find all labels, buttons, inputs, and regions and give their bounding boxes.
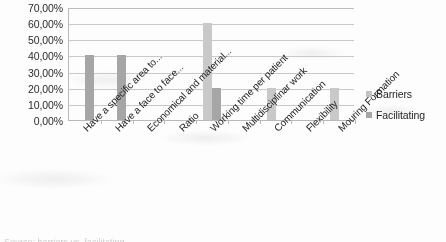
x-axis-tick bbox=[196, 120, 197, 124]
x-axis-tick bbox=[228, 120, 229, 124]
legend-swatch-icon bbox=[366, 112, 372, 118]
x-axis-tick bbox=[260, 120, 261, 124]
bar-barriers bbox=[203, 23, 212, 120]
bar-group bbox=[69, 8, 101, 120]
bar-barriers bbox=[267, 88, 276, 120]
legend-item: Barriers bbox=[366, 88, 425, 100]
y-axis-tick-label: 70,00% bbox=[28, 2, 63, 14]
x-axis-tick bbox=[323, 120, 324, 124]
chart-legend: BarriersFacilitating bbox=[366, 88, 425, 121]
y-axis-tick-label: 60,00% bbox=[28, 18, 63, 30]
bar-facilitating bbox=[85, 55, 94, 120]
bar-barriers bbox=[330, 88, 339, 120]
x-axis-tick bbox=[291, 120, 292, 124]
bar-group bbox=[133, 8, 165, 120]
bar-group bbox=[323, 8, 355, 120]
y-axis-tick-label: 20,00% bbox=[28, 83, 63, 95]
y-axis-tick-label: 10,00% bbox=[28, 99, 63, 111]
bar-group bbox=[228, 8, 260, 120]
bar-facilitating bbox=[212, 88, 221, 120]
y-axis-tick-labels: 70,00%60,00%50,00%40,00%30,00%20,00%10,0… bbox=[0, 0, 66, 122]
bar-group bbox=[196, 8, 228, 120]
bar-series-group bbox=[69, 8, 354, 120]
legend-item: Facilitating bbox=[366, 109, 425, 121]
bar-group bbox=[101, 8, 133, 120]
y-axis-tick-label: 0,00% bbox=[34, 115, 63, 127]
legend-label: Barriers bbox=[376, 88, 412, 100]
x-axis-tick bbox=[355, 120, 356, 124]
bar-group bbox=[164, 8, 196, 120]
y-axis-tick-label: 30,00% bbox=[28, 67, 63, 79]
legend-swatch-icon bbox=[366, 91, 372, 97]
y-axis-tick-label: 40,00% bbox=[28, 50, 63, 62]
x-axis-tick bbox=[101, 120, 102, 124]
bar-group bbox=[260, 8, 292, 120]
y-axis-tick-label: 50,00% bbox=[28, 34, 63, 46]
chart-figure: 70,00%60,00%50,00%40,00%30,00%20,00%10,0… bbox=[0, 0, 446, 242]
bar-group bbox=[291, 8, 323, 120]
bar-facilitating bbox=[117, 55, 126, 120]
legend-label: Facilitating bbox=[376, 109, 425, 121]
plot-area bbox=[68, 8, 354, 121]
x-axis-tick bbox=[133, 120, 134, 124]
figure-caption: Source: barriers vs. facilitating bbox=[4, 237, 125, 242]
x-axis-tick bbox=[164, 120, 165, 124]
